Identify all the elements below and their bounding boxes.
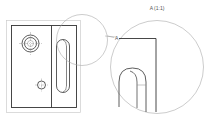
detail-edge-top-right: [119, 39, 156, 113]
detail-view-title: A (1:1): [150, 5, 165, 11]
detail-callout-label: A: [115, 35, 119, 41]
technical-drawing: A A (1:1): [0, 0, 208, 118]
detail-boundary-circle: [111, 21, 204, 114]
counterbore-hole: [19, 32, 42, 55]
detail-slot-arch-outer: [119, 68, 146, 112]
detail-view: A (1:1): [105, 5, 204, 114]
small-hole: [35, 79, 48, 92]
detail-slot-arch-inner: [130, 71, 137, 108]
main-view: A: [7, 15, 120, 113]
slot: [57, 40, 70, 93]
